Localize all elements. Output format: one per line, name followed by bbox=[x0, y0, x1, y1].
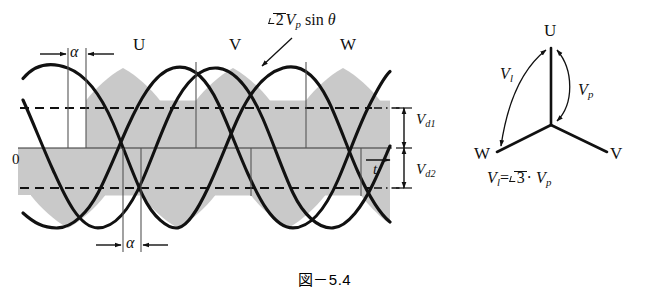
annotation-v-sub: p bbox=[296, 18, 301, 30]
phasor-vl-label: Vl bbox=[500, 66, 513, 84]
annotation-theta: θ bbox=[328, 11, 336, 28]
relation-eq: = bbox=[500, 169, 509, 186]
relation-dot: · bbox=[527, 169, 532, 186]
vd-dimensions bbox=[396, 108, 412, 188]
sqrt2-radical: 2 bbox=[268, 12, 286, 28]
annotation-sin: sin bbox=[305, 11, 324, 28]
vl-base: V bbox=[500, 65, 510, 82]
annotation-v: V bbox=[286, 11, 296, 28]
figure-caption: 図－5.4 bbox=[0, 268, 649, 289]
phasor-vp-label: Vp bbox=[578, 82, 593, 100]
phasor-arm-w bbox=[497, 125, 551, 152]
vd1-label: Vd1 bbox=[416, 112, 436, 129]
phasor-label-v: V bbox=[610, 145, 622, 162]
relation-rhs-sub: p bbox=[546, 176, 551, 188]
origin-label: 0 bbox=[12, 152, 20, 167]
vp-sub: p bbox=[588, 88, 593, 100]
vd1-sub: d1 bbox=[425, 118, 435, 129]
time-axis-label: t bbox=[373, 162, 377, 177]
phase-label-w: W bbox=[340, 36, 356, 53]
phasor-label-u: U bbox=[544, 22, 556, 39]
figure-canvas bbox=[0, 0, 649, 301]
vl-sub: l bbox=[510, 72, 513, 84]
figure-5-4: 2Vp sin θ U V W α α 0 t Vd1 Vd2 U V W Vl… bbox=[0, 0, 649, 301]
phase-label-v: V bbox=[229, 36, 241, 53]
alpha-label-top: α bbox=[70, 44, 78, 60]
sqrt3-radical: 3 bbox=[509, 170, 527, 186]
relation-lhs: V bbox=[487, 169, 497, 186]
vd1-base: V bbox=[416, 111, 425, 127]
curve-annotation-label: 2Vp sin θ bbox=[268, 12, 336, 30]
curve-annotation-leader bbox=[262, 38, 292, 66]
phasor-vp-arc bbox=[557, 50, 570, 121]
relation-rhs: V bbox=[536, 169, 546, 186]
alpha-label-bottom: α bbox=[126, 235, 134, 251]
phasor-arm-v bbox=[551, 125, 607, 152]
phase-label-u: U bbox=[133, 36, 145, 53]
vp-base: V bbox=[578, 81, 588, 98]
phasor-relation: Vl=3· Vp bbox=[487, 170, 551, 188]
vd2-label: Vd2 bbox=[416, 162, 436, 179]
vd2-sub: d2 bbox=[425, 168, 435, 179]
vd2-base: V bbox=[416, 161, 425, 177]
phasor-diagram bbox=[497, 48, 607, 152]
phasor-label-w: W bbox=[474, 145, 490, 162]
